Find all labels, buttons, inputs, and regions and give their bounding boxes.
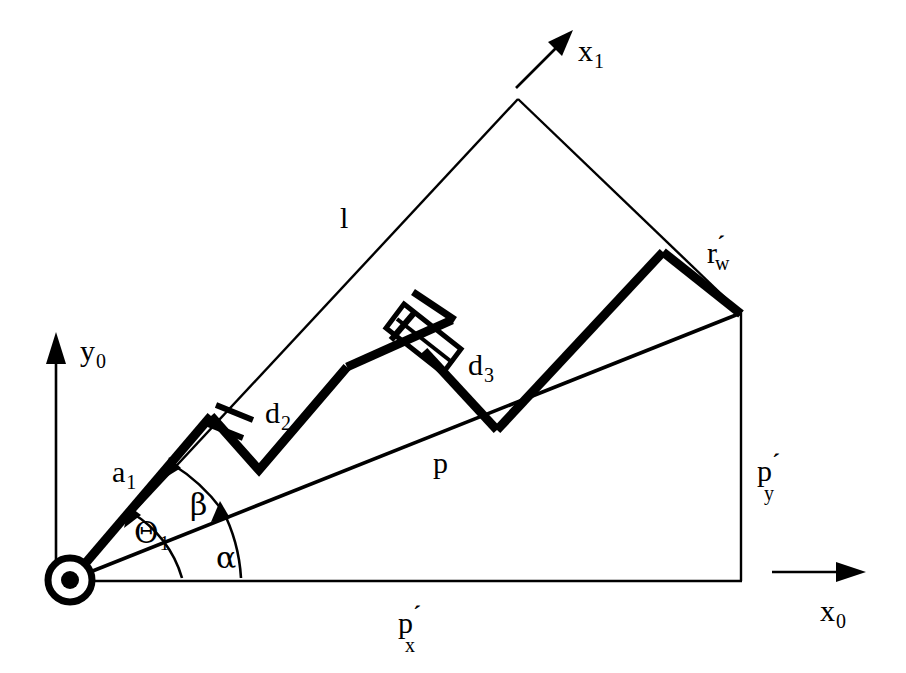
label-d2-base: d [265, 396, 280, 429]
label-d2-sub: 2 [280, 412, 291, 434]
apex-to-wrist-line [518, 99, 741, 313]
label-angle-theta1: Θ1 [134, 518, 170, 553]
label-a1-sub: 1 [125, 471, 136, 493]
label-component-px: p´ x [398, 604, 421, 654]
label-angle-beta: β [190, 490, 207, 520]
base-joint-symbol [48, 558, 92, 602]
label-rw-sub: w [714, 252, 729, 274]
y0-arrowhead [46, 332, 66, 364]
link-to-wrist-thick [497, 252, 663, 430]
label-link-l: l [340, 203, 348, 233]
label-px-sub: x [405, 636, 421, 654]
label-x1-base: x [578, 34, 593, 67]
label-d3-base: d [468, 348, 483, 381]
label-vector-p: p [433, 448, 448, 478]
label-theta1-base: Θ [134, 515, 159, 550]
label-p-base: p [433, 446, 448, 479]
label-py-sub: y [764, 484, 780, 502]
kinematic-diagram-svg [0, 0, 906, 673]
label-beta-base: β [190, 487, 207, 522]
label-x0-sub: 0 [835, 610, 846, 632]
vector-p-line [70, 313, 741, 580]
x0-arrowhead [836, 562, 866, 582]
label-px-top: p´ [398, 604, 421, 636]
diagram-canvas: y0 x0 x1 l r´w d3 d2 a1 p β Θ1 α [0, 0, 906, 673]
label-x1-axis: x1 [578, 36, 604, 71]
label-a1-base: a [112, 455, 125, 488]
label-x0-axis: x0 [820, 596, 846, 631]
label-theta1-sub: 1 [159, 532, 170, 554]
label-x1-sub: 1 [593, 50, 604, 72]
label-alpha-base: α [216, 540, 236, 575]
label-y0-sub: 0 [95, 350, 106, 372]
label-px-prime: ´ [413, 601, 421, 627]
label-y0-axis: y0 [80, 336, 106, 371]
label-angle-alpha: α [216, 543, 236, 573]
label-link-a1: a1 [112, 457, 136, 492]
label-link-rw: r´w [707, 232, 729, 273]
label-component-py: p´ y [757, 452, 780, 502]
label-py-top: p´ [757, 452, 780, 484]
label-x0-base: x [820, 594, 835, 627]
label-link-d2: d2 [265, 398, 291, 433]
label-l-base: l [340, 201, 348, 234]
label-y0-base: y [80, 334, 95, 367]
label-py-prime: ´ [772, 449, 780, 475]
label-d3-sub: 3 [483, 364, 494, 386]
label-link-d3: d3 [468, 350, 494, 385]
base-joint-inner-dot [61, 571, 79, 589]
